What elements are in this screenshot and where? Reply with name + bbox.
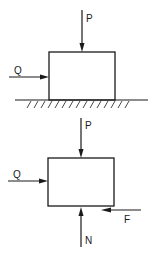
arrowhead-left-icon <box>101 208 111 213</box>
arrowhead-down-icon <box>79 149 84 158</box>
force-n-arrow <box>79 207 84 247</box>
force-label-q-top: Q <box>14 65 22 76</box>
force-p-arrow-top <box>80 10 85 52</box>
free-body-diagram: P Q P Q F <box>0 0 155 261</box>
arrowhead-up-icon <box>79 207 84 216</box>
force-label-p-bottom: P <box>85 120 92 131</box>
force-label-p-top: P <box>86 13 93 24</box>
force-p-arrow-bottom <box>79 118 84 158</box>
force-f-arrow <box>101 208 141 213</box>
bottom-panel: P Q F N <box>8 118 141 247</box>
ground-hatching <box>27 101 129 108</box>
force-label-q-bottom: Q <box>13 169 21 180</box>
force-label-f: F <box>124 214 130 225</box>
caption-fragment <box>0 253 155 261</box>
block-free-body <box>48 158 114 206</box>
top-panel: P Q <box>9 10 148 108</box>
arrowhead-right-icon <box>40 75 49 80</box>
block-top <box>49 52 115 100</box>
arrowhead-down-icon <box>80 43 85 52</box>
arrowhead-right-icon <box>39 179 48 184</box>
force-label-n: N <box>85 235 92 246</box>
